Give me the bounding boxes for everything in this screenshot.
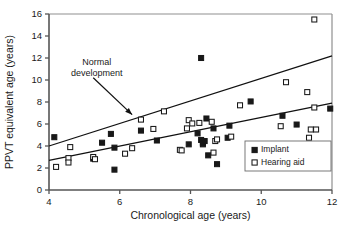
y-tick-label-2: 2 (37, 162, 42, 173)
data-point-hearing-aid (184, 126, 189, 131)
y-tick-label-12: 12 (31, 52, 42, 63)
x-tick-label-4: 4 (46, 196, 51, 207)
y-tick-label-16: 16 (31, 8, 42, 19)
x-tick-label-10: 10 (256, 196, 267, 207)
data-point-implant (199, 56, 204, 61)
y-axis-title: PPVT equivalent age (years) (3, 35, 15, 169)
data-point-hearing-aid (308, 127, 313, 132)
y-tick-label-8: 8 (37, 96, 42, 107)
y-tick-label-4: 4 (37, 140, 42, 151)
legend-label-hearing-aid: Hearing aid (261, 157, 305, 167)
data-point-hearing-aid (92, 157, 97, 162)
y-tick-label-10: 10 (31, 74, 42, 85)
x-tick-label-8: 8 (188, 196, 193, 207)
y-tick-label-0: 0 (37, 184, 42, 195)
annotation-text-line1: Normal (82, 57, 111, 67)
y-tick-label-14: 14 (31, 30, 42, 41)
annotation-text-line2: development (71, 68, 123, 78)
x-axis-title: Chronological age (years) (130, 209, 250, 221)
data-point-hearing-aid (66, 160, 71, 165)
figure-container: 02468101214164681012Chronological age (y… (0, 0, 346, 232)
data-point-implant (211, 126, 216, 131)
legend-marker-hearing-aid (252, 160, 257, 165)
data-point-hearing-aid (209, 119, 214, 124)
data-point-implant (154, 138, 159, 143)
data-point-hearing-aid (54, 164, 59, 169)
data-point-hearing-aid (305, 90, 310, 95)
data-point-implant (52, 135, 57, 140)
data-point-implant (206, 153, 211, 158)
data-point-implant (294, 122, 299, 127)
data-point-hearing-aid (284, 80, 289, 85)
data-point-hearing-aid (238, 103, 243, 108)
data-point-hearing-aid (312, 105, 317, 110)
y-tick-label-6: 6 (37, 118, 42, 129)
annotation-arrow-line (93, 78, 132, 115)
data-point-hearing-aid (215, 137, 220, 142)
data-point-hearing-aid (123, 151, 128, 156)
data-point-hearing-aid (307, 135, 312, 140)
data-point-implant (204, 116, 209, 121)
legend-marker-implant (252, 147, 257, 152)
data-point-hearing-aid (197, 120, 202, 125)
data-point-implant (215, 162, 220, 167)
data-point-implant (280, 113, 285, 118)
data-point-hearing-aid (130, 146, 135, 151)
legend-label-implant: Implant (261, 144, 290, 154)
data-point-hearing-aid (312, 17, 317, 22)
data-point-implant (248, 99, 253, 104)
data-point-implant (112, 145, 117, 150)
data-point-implant (138, 128, 143, 133)
data-point-implant (202, 139, 207, 144)
data-point-hearing-aid (314, 127, 319, 132)
data-point-hearing-aid (190, 121, 195, 126)
x-tick-label-12: 12 (327, 196, 338, 207)
data-point-implant (195, 131, 200, 136)
data-point-hearing-aid (68, 145, 73, 150)
data-point-hearing-aid (229, 134, 234, 139)
data-point-hearing-aid (179, 148, 184, 153)
data-point-hearing-aid (151, 126, 156, 131)
data-point-hearing-aid (161, 109, 166, 114)
data-point-implant (100, 140, 105, 145)
data-point-hearing-aid (138, 117, 143, 122)
scatter-plot: 02468101214164681012Chronological age (y… (0, 0, 346, 232)
data-point-implant (108, 131, 113, 136)
data-point-implant (328, 106, 333, 111)
data-point-implant (112, 167, 117, 172)
data-point-hearing-aid (211, 150, 216, 155)
data-point-hearing-aid (278, 124, 283, 129)
data-point-implant (186, 142, 191, 147)
x-tick-label-6: 6 (117, 196, 122, 207)
data-point-implant (227, 123, 232, 128)
